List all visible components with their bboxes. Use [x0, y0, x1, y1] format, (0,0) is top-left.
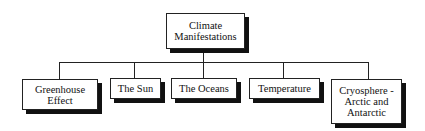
node-label-line: Manifestations	[174, 31, 236, 42]
connector-horizontal-bus	[59, 62, 369, 63]
connector-greenhouse	[59, 62, 60, 79]
connector-temperature	[283, 62, 284, 78]
node-temperature: Temperature	[249, 78, 320, 99]
node-label-line: Cryosphere -	[339, 85, 394, 96]
node-label-line: The Sun	[118, 83, 153, 94]
node-the-oceans: The Oceans	[171, 78, 237, 99]
node-label-line: The Oceans	[179, 83, 229, 94]
node-label-line: Temperature	[258, 83, 311, 94]
connector-cryosphere	[368, 62, 369, 79]
node-label-line: Effect	[35, 95, 85, 106]
node-label-line: Climate	[174, 20, 236, 31]
node-label-line: Greenhouse	[35, 84, 85, 95]
node-greenhouse-effect: Greenhouse Effect	[22, 79, 98, 110]
node-cryosphere: Cryosphere - Arctic and Antarctic	[331, 79, 402, 124]
node-climate-manifestations: Climate Manifestations	[166, 13, 245, 49]
node-the-sun: The Sun	[110, 78, 161, 99]
connector-oceans	[203, 62, 204, 78]
connector-root-stem	[203, 48, 204, 63]
node-label-line: Arctic and	[339, 96, 394, 107]
connector-sun	[134, 62, 135, 78]
node-label-line: Antarctic	[339, 107, 394, 118]
